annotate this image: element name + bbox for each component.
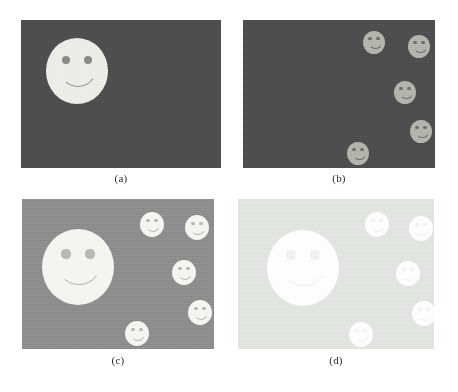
- panel-image-d: [238, 199, 434, 349]
- mouth-smile-icon: [353, 154, 366, 161]
- mouth-smile-icon: [402, 274, 416, 281]
- mouth-smile-icon: [131, 334, 145, 341]
- panel-image-b: [243, 20, 435, 168]
- eye-left-icon: [413, 41, 416, 44]
- eye-left-icon: [418, 308, 422, 312]
- figure-root: (a)(b)(c)(d): [0, 0, 458, 392]
- smiley-face-a-face-medium: [46, 38, 108, 104]
- smiley-face-b-face-small-1: [363, 31, 385, 54]
- mouth-smile-icon: [416, 132, 429, 139]
- mouth-smile-icon: [178, 273, 192, 280]
- smiley-face-d-face-small-4: [412, 301, 434, 326]
- eye-right-icon: [85, 249, 94, 258]
- panel-c: [22, 199, 214, 349]
- eye-right-icon: [186, 267, 190, 271]
- eye-right-icon: [363, 329, 367, 333]
- smiley-face-c-face-large: [42, 229, 114, 305]
- eye-left-icon: [178, 267, 182, 271]
- eye-left-icon: [415, 126, 418, 129]
- mouth-smile-icon: [414, 47, 427, 54]
- panel-caption-a: (a): [21, 172, 221, 184]
- eye-right-icon: [410, 268, 414, 272]
- eye-left-icon: [368, 37, 371, 40]
- smiley-face-d-face-small-1: [365, 212, 389, 237]
- mouth-smile-icon: [415, 229, 429, 236]
- eye-left-icon: [286, 250, 295, 259]
- smiley-face-c-face-small-3: [172, 260, 196, 285]
- eye-left-icon: [131, 328, 135, 332]
- eye-right-icon: [426, 308, 430, 312]
- eye-right-icon: [423, 126, 426, 129]
- smiley-face-c-face-small-2: [185, 215, 209, 240]
- smiley-face-b-face-small-2: [408, 35, 430, 58]
- eye-right-icon: [202, 307, 206, 311]
- panel-image-a: [21, 20, 221, 168]
- panel-caption-c: (c): [22, 354, 214, 366]
- mouth-smile-icon: [59, 268, 99, 285]
- eye-left-icon: [352, 148, 355, 151]
- eye-left-icon: [61, 249, 70, 258]
- panel-image-c: [22, 199, 214, 349]
- eye-right-icon: [199, 222, 203, 226]
- eye-left-icon: [191, 222, 195, 226]
- mouth-smile-icon: [369, 43, 382, 50]
- eye-right-icon: [139, 328, 143, 332]
- eye-left-icon: [415, 223, 419, 227]
- smiley-face-d-face-small-2: [409, 216, 433, 241]
- smiley-face-c-face-small-5: [125, 321, 149, 346]
- mouth-smile-icon: [418, 314, 432, 321]
- panel-b: [243, 20, 435, 168]
- panel-d: [238, 199, 434, 349]
- eye-left-icon: [62, 56, 70, 64]
- smiley-face-b-face-small-5: [347, 142, 369, 165]
- panel-caption-d: (d): [238, 354, 434, 366]
- eye-left-icon: [399, 87, 402, 90]
- mouth-smile-icon: [191, 228, 205, 235]
- smiley-face-c-face-small-4: [188, 300, 212, 325]
- eye-right-icon: [421, 41, 424, 44]
- eye-right-icon: [84, 56, 92, 64]
- eye-left-icon: [402, 268, 406, 272]
- eye-right-icon: [407, 87, 410, 90]
- eye-right-icon: [360, 148, 363, 151]
- eye-right-icon: [423, 223, 427, 227]
- mouth-smile-icon: [355, 335, 369, 342]
- eye-right-icon: [379, 219, 383, 223]
- mouth-smile-icon: [371, 225, 385, 232]
- mouth-smile-icon: [194, 313, 208, 320]
- eye-left-icon: [194, 307, 198, 311]
- panel-caption-b: (b): [243, 172, 435, 184]
- mouth-smile-icon: [61, 72, 95, 87]
- mouth-smile-icon: [146, 225, 160, 232]
- smiley-face-d-face-small-3: [396, 261, 420, 286]
- eye-left-icon: [355, 329, 359, 333]
- smiley-face-b-face-small-4: [410, 120, 432, 143]
- smiley-face-d-face-large: [267, 230, 339, 306]
- eye-right-icon: [310, 250, 319, 259]
- smiley-face-d-face-small-5: [349, 322, 373, 347]
- eye-right-icon: [154, 219, 158, 223]
- smiley-face-b-face-small-3: [394, 81, 416, 104]
- smiley-face-c-face-small-1: [140, 212, 164, 237]
- mouth-smile-icon: [284, 269, 324, 286]
- eye-left-icon: [146, 219, 150, 223]
- scan-grain-overlay: [21, 20, 221, 168]
- panel-a: [21, 20, 221, 168]
- eye-left-icon: [371, 219, 375, 223]
- mouth-smile-icon: [400, 93, 413, 100]
- eye-right-icon: [376, 37, 379, 40]
